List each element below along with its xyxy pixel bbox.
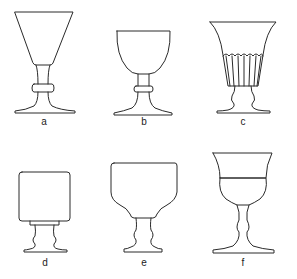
glass-a-bowl <box>15 12 73 65</box>
glass-d: d <box>19 172 70 268</box>
glass-e-label: e <box>141 257 147 268</box>
glass-d-bowl <box>19 172 70 221</box>
glass-diagram: a b c d e f <box>0 0 297 279</box>
glass-b-label: b <box>141 116 147 127</box>
glass-e-bowl <box>111 163 177 218</box>
glass-f-stem <box>213 205 274 253</box>
glass-c-label: c <box>241 116 246 127</box>
glass-c-flutes <box>223 54 263 86</box>
glass-e: e <box>111 163 177 268</box>
glass-a: a <box>15 12 75 127</box>
glass-f-bowl <box>220 178 267 205</box>
glass-f: f <box>213 153 274 268</box>
glass-c: c <box>210 22 276 127</box>
glass-a-stem <box>15 65 75 113</box>
glass-b: b <box>114 31 172 127</box>
glass-f-label: f <box>242 257 245 268</box>
glass-c-stem <box>217 86 270 113</box>
glass-e-stem <box>124 218 162 252</box>
glass-f-rim <box>213 153 272 178</box>
glass-d-stem <box>24 221 67 252</box>
glass-d-label: d <box>42 257 48 268</box>
glass-b-bowl <box>117 31 170 74</box>
glass-b-stem <box>114 74 172 115</box>
glass-a-label: a <box>41 116 47 127</box>
